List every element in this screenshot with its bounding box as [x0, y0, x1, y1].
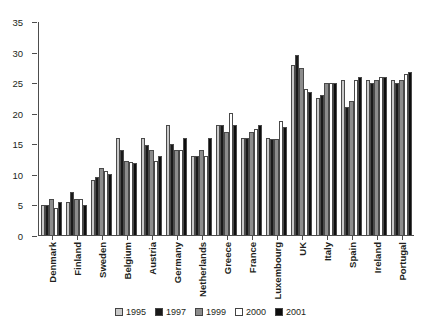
x-axis-label-text: Finland: [71, 242, 82, 276]
y-tick-35: 35: [32, 22, 37, 23]
bar-cluster: [114, 22, 139, 235]
legend-swatch-icon: [235, 308, 243, 316]
bar: [283, 127, 287, 235]
y-tick-30: 30: [32, 53, 37, 54]
bar-cluster: [189, 22, 214, 235]
y-tick-0: 0: [32, 236, 37, 237]
legend-item-1997[interactable]: 1997: [155, 307, 186, 317]
bar: [333, 83, 337, 235]
x-tick: [177, 236, 178, 240]
bar-chart: 05101520253035 DenmarkFinlandSwedenBelgi…: [0, 0, 421, 321]
bar-cluster: [289, 22, 314, 235]
x-tick: [52, 236, 53, 240]
bar-cluster: [139, 22, 164, 235]
bar-cluster: [264, 22, 289, 235]
x-axis-label-uk: UK: [290, 241, 315, 299]
x-axis-label-text: Germany: [171, 242, 182, 283]
x-axis-label-greece: Greece: [214, 241, 239, 299]
x-axis-label-sweden: Sweden: [89, 241, 114, 299]
y-tick-label: 15: [12, 139, 23, 150]
x-axis-label-text: France: [247, 242, 258, 273]
bar: [83, 205, 87, 235]
x-tick: [127, 236, 128, 240]
x-axis-label-text: UK: [297, 242, 308, 256]
x-axis-label-finland: Finland: [64, 241, 89, 299]
y-tick-label: 30: [12, 47, 23, 58]
legend-swatch-icon: [195, 308, 203, 316]
legend-item-1999[interactable]: 1999: [195, 307, 226, 317]
bar-cluster: [239, 22, 264, 235]
legend-label: 2000: [246, 307, 266, 317]
bar: [208, 138, 212, 235]
y-tick-5: 5: [32, 205, 37, 206]
x-axis-label-text: Netherlands: [196, 242, 207, 297]
x-axis-label-denmark: Denmark: [39, 241, 64, 299]
y-tick-25: 25: [32, 83, 37, 84]
x-tick: [152, 236, 153, 240]
bar-cluster: [214, 22, 239, 235]
x-axis-label-text: Spain: [347, 242, 358, 268]
x-axis-label-text: Austria: [146, 242, 157, 275]
y-tick-label: 20: [12, 108, 23, 119]
y-tick-label: 10: [12, 169, 23, 180]
x-axis-label-italy: Italy: [315, 241, 340, 299]
bar-cluster: [389, 22, 414, 235]
bar: [358, 77, 362, 235]
bar: [158, 156, 162, 235]
x-axis-label-germany: Germany: [164, 241, 189, 299]
y-tick-20: 20: [32, 114, 37, 115]
legend-label: 2001: [286, 307, 306, 317]
legend-label: 1995: [126, 307, 146, 317]
x-tick: [327, 236, 328, 240]
bar: [133, 163, 137, 235]
x-axis-label-text: Greece: [221, 242, 232, 274]
bar: [258, 125, 262, 235]
x-tick: [302, 236, 303, 240]
x-axis-label-luxembourg: Luxembourg: [265, 241, 290, 299]
bar-cluster: [64, 22, 89, 235]
x-axis-label-text: Luxembourg: [272, 242, 283, 300]
x-axis-label-ireland: Ireland: [365, 241, 390, 299]
bar-cluster: [39, 22, 64, 235]
bar-cluster: [89, 22, 114, 235]
bar-cluster: [314, 22, 339, 235]
y-tick-label: 5: [18, 200, 23, 211]
x-axis-label-text: Sweden: [96, 242, 107, 278]
chart-legend: 19951997199920002001: [0, 307, 421, 317]
bar: [308, 92, 312, 235]
x-tick: [252, 236, 253, 240]
legend-item-1995[interactable]: 1995: [115, 307, 146, 317]
x-tick: [352, 236, 353, 240]
x-axis-label-text: Italy: [322, 242, 333, 261]
bar-cluster: [364, 22, 389, 235]
bar: [183, 138, 187, 235]
y-tick-label: 25: [12, 78, 23, 89]
x-axis-label-france: France: [240, 241, 265, 299]
plot-area: 05101520253035: [38, 22, 414, 236]
bar: [108, 174, 112, 235]
legend-item-2001[interactable]: 2001: [275, 307, 306, 317]
legend-swatch-icon: [275, 308, 283, 316]
x-tick: [227, 236, 228, 240]
legend-swatch-icon: [155, 308, 163, 316]
x-tick: [202, 236, 203, 240]
x-tick: [377, 236, 378, 240]
y-tick-10: 10: [32, 175, 37, 176]
y-tick-15: 15: [32, 144, 37, 145]
x-axis-label-text: Ireland: [372, 242, 383, 273]
x-axis-label-portugal: Portugal: [390, 241, 415, 299]
x-tick: [277, 236, 278, 240]
x-axis-label-text: Denmark: [46, 242, 57, 283]
x-tick: [402, 236, 403, 240]
x-axis-label-netherlands: Netherlands: [189, 241, 214, 299]
bar-cluster: [164, 22, 189, 235]
x-axis-label-text: Portugal: [397, 242, 408, 281]
bar: [408, 72, 412, 235]
x-axis-label-belgium: Belgium: [114, 241, 139, 299]
bar-clusters: [39, 22, 414, 235]
legend-swatch-icon: [115, 308, 123, 316]
bar-cluster: [339, 22, 364, 235]
bar: [383, 77, 387, 235]
x-axis-label-austria: Austria: [139, 241, 164, 299]
legend-item-2000[interactable]: 2000: [235, 307, 266, 317]
